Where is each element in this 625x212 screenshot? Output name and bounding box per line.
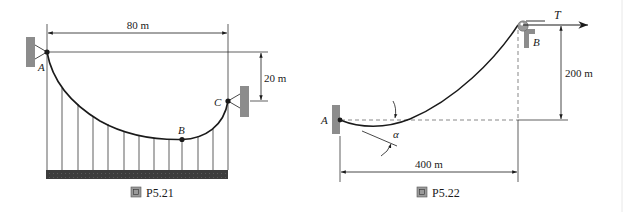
support-c bbox=[228, 86, 249, 117]
caption-p5-22: P5.22 bbox=[417, 186, 460, 200]
horizontal-label: 400 m bbox=[415, 158, 443, 170]
caption-p5-21: P5.21 bbox=[131, 186, 174, 200]
point-a bbox=[44, 49, 49, 54]
label-b: B bbox=[533, 36, 540, 48]
angle-arrow-top bbox=[393, 101, 396, 118]
cable bbox=[340, 25, 518, 126]
vertical-label: 200 m bbox=[565, 67, 593, 79]
label-a: A bbox=[37, 61, 45, 73]
deck bbox=[46, 170, 228, 179]
label-c: C bbox=[214, 96, 222, 108]
tension-label: T bbox=[554, 8, 562, 22]
point-b bbox=[179, 137, 184, 142]
figure-icon bbox=[417, 187, 427, 197]
angle-arrow-bottom bbox=[381, 144, 391, 156]
span-label: 80 m bbox=[127, 19, 150, 31]
angle-label: α bbox=[393, 128, 399, 140]
label-b: B bbox=[178, 124, 185, 136]
label-a: A bbox=[320, 114, 328, 126]
point-c bbox=[225, 98, 230, 103]
caption-text: P5.21 bbox=[146, 186, 174, 200]
hangers bbox=[47, 52, 228, 170]
tangent-line bbox=[362, 131, 397, 146]
figure-p5-22: T 200 m 400 m α A B P5.22 bbox=[320, 8, 593, 200]
figure-p5-21: 80 m 20 m A B C bbox=[26, 19, 287, 200]
diagram-canvas: 80 m 20 m A B C bbox=[0, 0, 625, 212]
figure-icon bbox=[131, 187, 141, 197]
caption-text: P5.22 bbox=[432, 186, 460, 200]
sag-difference-label: 20 m bbox=[264, 72, 287, 84]
cable bbox=[47, 52, 228, 140]
point-a bbox=[338, 118, 343, 123]
